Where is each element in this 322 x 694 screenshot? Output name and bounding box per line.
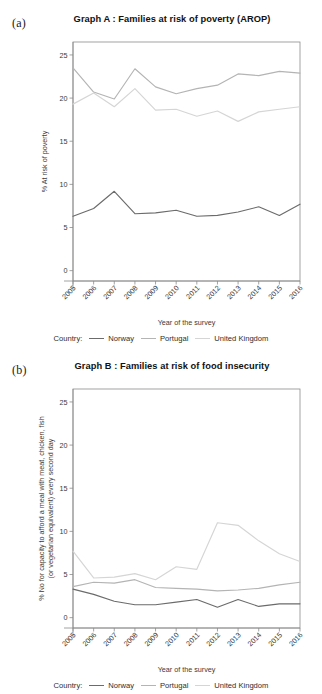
x-axis-title: Year of the survey bbox=[158, 318, 216, 327]
legend-label-portugal: Portugal bbox=[160, 681, 188, 690]
x-tick-label: 2012 bbox=[204, 284, 222, 302]
legend-label-united-kingdom: United Kingdom bbox=[214, 681, 268, 690]
x-tick-label: 2007 bbox=[101, 631, 119, 649]
graph-a-svg: 0510152025200520062007200820092010201120… bbox=[0, 0, 322, 347]
x-tick-label: 2010 bbox=[163, 631, 181, 649]
x-tick-label: 2011 bbox=[184, 284, 201, 301]
legend-label-united-kingdom: United Kingdom bbox=[214, 334, 268, 343]
series-line-portugal bbox=[73, 68, 300, 99]
graph-b-plot-area: 0510152025200520062007200820092010201120… bbox=[0, 347, 322, 694]
x-tick-label: 2010 bbox=[163, 284, 181, 302]
legend-swatch-norway bbox=[89, 685, 104, 686]
y-tick-label: 0 bbox=[64, 613, 68, 622]
x-axis-title: Year of the survey bbox=[158, 665, 216, 674]
y-tick-label: 25 bbox=[60, 51, 68, 60]
x-tick-label: 2014 bbox=[246, 631, 264, 649]
x-tick-label: 2013 bbox=[225, 631, 243, 649]
x-tick-label: 2012 bbox=[204, 631, 222, 649]
legend-swatch-norway bbox=[89, 338, 104, 339]
y-axis-title: % At risk of poverty bbox=[40, 130, 49, 192]
y-tick-label: 10 bbox=[60, 527, 68, 536]
y-tick-label: 10 bbox=[60, 180, 68, 189]
series-line-norway bbox=[73, 589, 300, 607]
y-tick-label: 20 bbox=[60, 94, 68, 103]
legend-title: Country: bbox=[54, 681, 83, 690]
legend-swatch-united-kingdom bbox=[195, 338, 210, 339]
y-tick-label: 5 bbox=[64, 570, 68, 579]
x-tick-label: 2005 bbox=[60, 631, 78, 649]
legend-swatch-united-kingdom bbox=[195, 685, 210, 686]
graph-a-legend: Country: Norway Portugal United Kingdom bbox=[0, 334, 322, 343]
figure-panel-b: (b) Graph B : Families at risk of food i… bbox=[0, 347, 322, 694]
x-tick-label: 2008 bbox=[122, 284, 140, 302]
x-tick-label: 2016 bbox=[287, 631, 305, 649]
legend-label-portugal: Portugal bbox=[160, 334, 188, 343]
x-tick-label: 2006 bbox=[81, 284, 99, 302]
legend-label-norway: Norway bbox=[108, 681, 134, 690]
x-tick-label: 2015 bbox=[266, 284, 284, 302]
x-tick-label: 2014 bbox=[246, 284, 264, 302]
y-tick-label: 15 bbox=[60, 137, 68, 146]
graph-b-legend: Country: Norway Portugal United Kingdom bbox=[0, 681, 322, 690]
legend-title: Country: bbox=[54, 334, 83, 343]
figure-panel-a: (a) Graph A : Families at risk of povert… bbox=[0, 0, 322, 347]
graph-b-svg: 0510152025200520062007200820092010201120… bbox=[0, 347, 322, 694]
series-line-portugal bbox=[73, 580, 300, 591]
x-tick-label: 2006 bbox=[81, 631, 99, 649]
y-tick-label: 15 bbox=[60, 484, 68, 493]
y-tick-label: 5 bbox=[64, 223, 68, 232]
legend-entry-united-kingdom: United Kingdom bbox=[195, 334, 268, 343]
legend-entry-portugal: Portugal bbox=[141, 681, 188, 690]
y-axis-title-group: % No for capacity to afford a meal with … bbox=[37, 416, 55, 600]
plot-frame bbox=[73, 389, 300, 628]
plot-frame bbox=[73, 42, 300, 281]
x-tick-label: 2016 bbox=[287, 284, 305, 302]
series-line-norway bbox=[73, 191, 300, 216]
legend-entry-portugal: Portugal bbox=[141, 334, 188, 343]
x-tick-label: 2009 bbox=[142, 284, 160, 302]
x-tick-label: 2007 bbox=[101, 284, 119, 302]
x-tick-label: 2008 bbox=[122, 631, 140, 649]
series-line-united-kingdom bbox=[73, 523, 300, 580]
legend-swatch-portugal bbox=[141, 338, 156, 339]
legend-entry-norway: Norway bbox=[89, 681, 134, 690]
legend-label-norway: Norway bbox=[108, 334, 134, 343]
y-tick-label: 20 bbox=[60, 441, 68, 450]
y-axis-title-line2: (or vegetarian equivalent) every second … bbox=[46, 438, 55, 578]
y-tick-label: 25 bbox=[60, 398, 68, 407]
legend-swatch-portugal bbox=[141, 685, 156, 686]
legend-entry-norway: Norway bbox=[89, 334, 134, 343]
y-tick-label: 0 bbox=[64, 266, 68, 275]
legend-entry-united-kingdom: United Kingdom bbox=[195, 681, 268, 690]
x-tick-label: 2005 bbox=[60, 284, 78, 302]
graph-a-plot-area: 0510152025200520062007200820092010201120… bbox=[0, 0, 322, 347]
series-line-united-kingdom bbox=[73, 89, 300, 122]
x-tick-label: 2013 bbox=[225, 284, 243, 302]
x-tick-label: 2011 bbox=[184, 631, 201, 648]
x-tick-label: 2009 bbox=[142, 631, 160, 649]
x-tick-label: 2015 bbox=[266, 631, 284, 649]
